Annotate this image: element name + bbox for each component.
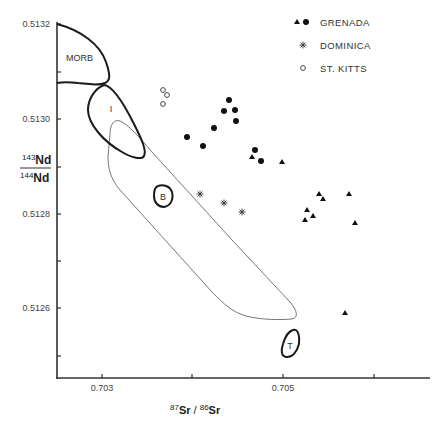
data-point <box>320 196 326 201</box>
asterisk-marker-icon <box>300 42 307 49</box>
x-tick-label-0703: 0.703 <box>91 383 114 393</box>
y-tick-label-05128: 0.5128 <box>22 209 50 219</box>
y-axis-title: 143Nd 144Nd <box>20 153 51 185</box>
data-point <box>239 209 246 216</box>
open-circle-marker-icon <box>301 66 306 71</box>
morb-field-label: MORB <box>66 53 93 63</box>
data-point <box>211 125 217 131</box>
i-field <box>88 85 145 158</box>
filled-circle-marker-icon <box>303 19 309 25</box>
axes: 0.5132 0.5130 0.5128 0.5126 0.703 0.705 <box>22 19 430 393</box>
data-point <box>197 191 204 198</box>
data-point <box>352 220 358 225</box>
legend-item-dominica: DOMINICA <box>300 40 371 51</box>
data-point <box>304 207 310 212</box>
y-tick-label-05130: 0.5130 <box>22 114 50 124</box>
x-axis-title: 87Sr / 86Sr <box>170 403 221 416</box>
data-point <box>165 93 170 98</box>
legend-label-dominica: DOMINICA <box>320 40 371 51</box>
svg-text:143Nd: 143Nd <box>22 153 51 167</box>
legend: GRENADA DOMINICA ST. KITTS <box>294 17 371 74</box>
y-title-den: Nd <box>33 171 49 185</box>
isotope-scatter-chart: 0.5132 0.5130 0.5128 0.5126 0.703 0.705 … <box>0 0 444 428</box>
y-title-den-sup: 144 <box>20 171 34 180</box>
y-title-num-sup: 143 <box>22 153 36 162</box>
data-point <box>316 191 322 196</box>
i-field-label: I <box>110 104 113 114</box>
data-point <box>342 310 348 315</box>
mantle-array-envelope <box>108 121 296 320</box>
data-point <box>249 154 255 159</box>
data-point <box>226 97 232 103</box>
data-point <box>252 147 258 153</box>
x-tick-label-0705: 0.705 <box>272 383 295 393</box>
y-title-num: Nd <box>35 153 51 167</box>
legend-item-grenada: GRENADA <box>294 17 370 28</box>
triangle-marker-icon <box>294 19 300 24</box>
x-title-el1: Sr <box>179 404 191 416</box>
y-tick-label-05126: 0.5126 <box>22 303 50 313</box>
data-point <box>302 217 308 222</box>
y-tick-label-05132: 0.5132 <box>22 19 50 29</box>
series-dominica <box>197 191 246 216</box>
data-point <box>279 159 285 164</box>
legend-label-grenada: GRENADA <box>320 17 370 28</box>
data-point <box>346 191 352 196</box>
legend-item-st-kitts: ST. KITTS <box>301 63 367 74</box>
data-point <box>184 134 190 140</box>
data-point <box>233 118 239 124</box>
data-point <box>232 107 238 113</box>
data-point <box>221 108 227 114</box>
data-point <box>221 200 228 207</box>
x-title-sep: / <box>191 404 200 416</box>
data-point <box>200 143 206 149</box>
data-point <box>258 158 264 164</box>
data-point <box>161 88 166 93</box>
x-title-el2: Sr <box>209 404 221 416</box>
data-point <box>161 102 166 107</box>
svg-text:144Nd: 144Nd <box>20 171 49 185</box>
series-grenada-circles <box>184 97 264 164</box>
series-grenada-triangles <box>249 154 358 315</box>
series-st-kitts <box>161 88 170 107</box>
t-field-label: T <box>287 341 293 351</box>
legend-label-st-kitts: ST. KITTS <box>320 63 367 74</box>
svg-text:87Sr / 86Sr: 87Sr / 86Sr <box>170 403 221 416</box>
data-point <box>310 213 316 218</box>
b-field-label: B <box>160 192 166 202</box>
